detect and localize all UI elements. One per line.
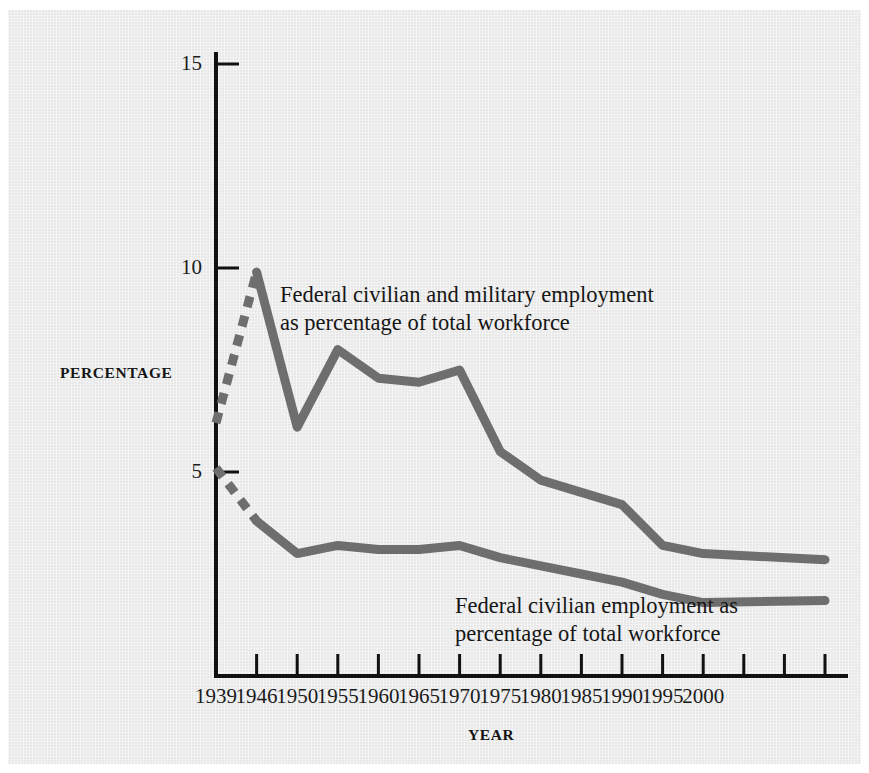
annotation-upper-line2: as percentage of total workforce [280,309,570,337]
annotation-lower-line1: Federal civilian employment as [455,592,738,620]
x-tick-label: 2000 [679,684,727,709]
chart-plot-area [0,0,869,773]
series-1-line [257,521,825,603]
figure-container: 15105 1939194619501955196019651970197519… [0,0,869,773]
y-tick-label: 10 [160,255,202,280]
axis-lines [214,52,848,678]
x-axis-title: YEAR [468,726,514,744]
series-0-dashed-segment [216,272,257,423]
annotation-upper-line1: Federal civilian and military employment [280,281,654,309]
y-tick-label: 15 [160,51,202,76]
y-tick-label: 5 [160,459,202,484]
series-1-dashed-segment [216,468,257,521]
annotation-lower-line2: percentage of total workforce [455,620,721,648]
y-axis-ticks [216,64,239,472]
x-axis-ticks [257,654,825,676]
y-axis-title: PERCENTAGE [60,364,173,382]
